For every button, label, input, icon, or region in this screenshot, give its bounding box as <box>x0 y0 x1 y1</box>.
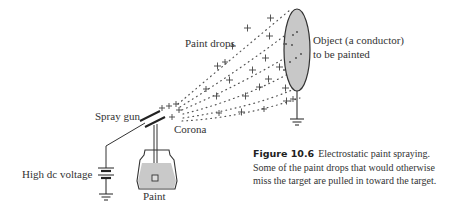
plus-icon <box>282 85 289 92</box>
label-paint-drops: Paint drops <box>185 37 235 49</box>
plus-icon <box>249 67 256 74</box>
spray-trajectories <box>178 10 300 121</box>
spray-gun <box>140 111 165 127</box>
charge-plus-signs <box>159 15 296 121</box>
plus-icon <box>213 93 220 100</box>
label-corona: Corona <box>174 123 206 135</box>
object-ground <box>290 91 304 125</box>
label-paint: Paint <box>143 190 166 202</box>
plus-icon <box>276 64 283 71</box>
plus-icon <box>265 76 272 83</box>
label-high-dc-voltage: High dc voltage <box>22 168 92 180</box>
label-object-line2: to be painted <box>313 48 370 60</box>
figure-number: Figure 10.6 <box>253 148 314 159</box>
conductor-object <box>284 9 310 91</box>
plus-icon <box>261 106 267 112</box>
plus-icon <box>262 55 269 62</box>
plus-icon <box>173 101 179 107</box>
plus-icon <box>242 93 249 100</box>
battery-icon <box>98 168 114 200</box>
label-spray-gun: Spray gun <box>95 110 140 122</box>
figure-caption: Figure 10.6Electrostatic paint spraying.… <box>253 147 448 188</box>
plus-icon <box>169 114 175 120</box>
label-object-line1: Object (a conductor) <box>313 34 404 46</box>
plus-icon <box>283 98 290 105</box>
plus-icon <box>214 63 221 70</box>
plus-icon <box>222 59 228 65</box>
electrostatic-paint-spraying-figure: Paint drops Object (a conductor) to be p… <box>0 0 451 210</box>
plus-icon <box>176 107 182 113</box>
plus-icon <box>166 103 172 109</box>
plus-icon <box>256 84 263 91</box>
plus-icon <box>226 77 233 84</box>
high-voltage-wire <box>106 123 145 168</box>
plus-icon <box>267 15 274 22</box>
plus-icon <box>244 25 251 32</box>
plus-icon <box>159 105 165 111</box>
plus-icon <box>266 33 273 40</box>
plus-icon <box>203 86 209 92</box>
